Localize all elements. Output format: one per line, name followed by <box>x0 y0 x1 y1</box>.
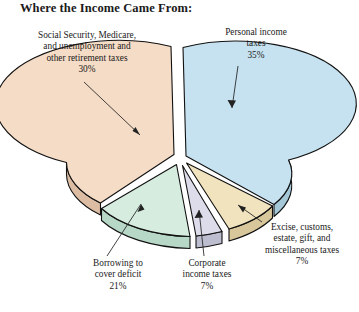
slice-label-corporate-income: Corporate income taxes 7% <box>155 258 259 292</box>
slice-label-personal-income: Personal income taxes 35% <box>198 27 314 61</box>
pie-chart-figure: Where the Income Came From: .top { strok… <box>0 0 359 312</box>
slice-label-excise-customs: Excise, customs, estate, gift, and misce… <box>246 222 358 268</box>
slice-label-social-security: Social Security, Medicare, and unemploym… <box>11 30 163 76</box>
